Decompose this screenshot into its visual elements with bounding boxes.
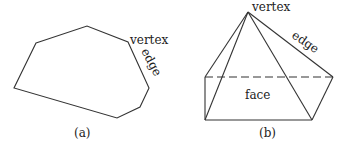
base-right-edge xyxy=(312,77,333,120)
polygon-shape xyxy=(14,26,149,118)
figure-a: vertex edge (a) xyxy=(14,26,169,140)
face-label: face xyxy=(245,88,270,102)
lateral-edge-front-right xyxy=(248,12,312,120)
caption-b: (b) xyxy=(259,126,276,140)
diagram-canvas: vertex edge (a) vertex edge face (b) xyxy=(0,0,338,146)
vertex-label-b: vertex xyxy=(251,0,291,14)
edge-label-b: edge xyxy=(289,28,321,56)
caption-a: (a) xyxy=(74,126,91,140)
lateral-edge-front-left xyxy=(205,12,248,120)
vertex-label-a: vertex xyxy=(129,33,169,47)
figure-b: vertex edge face (b) xyxy=(205,0,333,140)
